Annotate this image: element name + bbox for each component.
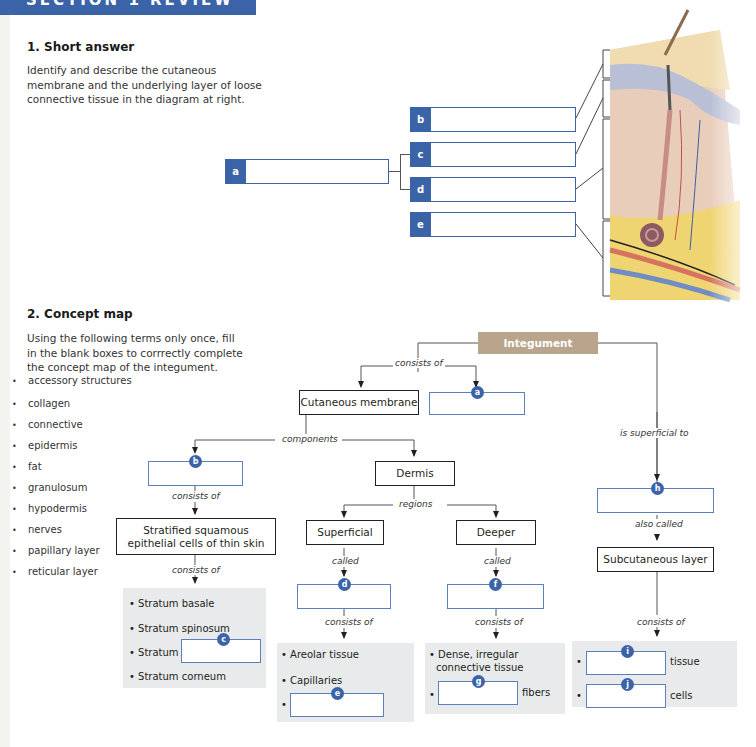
badge-j: j	[621, 678, 634, 691]
panel-item: • Stratum basale	[129, 598, 215, 609]
blank-e[interactable]: e	[290, 693, 384, 717]
badge-a: a	[471, 386, 484, 399]
panel-item: cells	[670, 690, 692, 701]
link-consists-of: consists of	[323, 617, 375, 627]
superficial-node: Superficial	[306, 520, 384, 545]
panel-item: connective tissue	[436, 662, 524, 673]
dermis-node: Dermis	[375, 461, 455, 486]
blank-g[interactable]: g	[438, 681, 518, 705]
panel-item: • Capillaries	[281, 675, 342, 686]
subcutaneous-layer-node: Subcutaneous layer	[597, 547, 714, 572]
blank-h[interactable]: h	[597, 488, 714, 513]
link-consists-of: consists of	[393, 358, 445, 368]
link-is-superficial-to: is superficial to	[618, 428, 691, 438]
badge-b: b	[189, 455, 202, 468]
hypodermis-panel: • i tissue • j cells	[572, 641, 737, 707]
stratified-squamous-node: Stratified squamous epithelial cells of …	[116, 518, 276, 555]
link-consists-of: consists of	[635, 617, 687, 627]
panel-item: • Stratum	[129, 647, 179, 658]
blank-a[interactable]: a	[429, 392, 525, 415]
panel-item: •	[576, 656, 582, 667]
deeper-node: Deeper	[456, 520, 536, 545]
link-consists-of: consists of	[473, 617, 525, 627]
badge-c: c	[217, 633, 230, 646]
link-consists-of: consists of	[170, 565, 222, 575]
link-also-called: also called	[633, 519, 685, 529]
link-regions: regions	[397, 499, 434, 509]
node-line: epithelial cells of thin skin	[128, 537, 265, 550]
panel-item: •	[429, 689, 435, 700]
concept-map-connectors	[0, 0, 756, 747]
panel-item: • Stratum corneum	[129, 671, 226, 682]
panel-item: fibers	[522, 687, 550, 698]
link-called: called	[330, 556, 361, 566]
blank-f[interactable]: f	[447, 584, 544, 609]
link-called: called	[482, 556, 513, 566]
blank-i[interactable]: i	[586, 651, 666, 675]
epidermis-strata-panel: • Stratum basale • Stratum spinosum • St…	[123, 588, 266, 688]
badge-e: e	[331, 687, 344, 700]
badge-g: g	[472, 675, 485, 688]
panel-item: • Stratum spinosum	[129, 623, 230, 634]
integument-node: Integument	[478, 332, 598, 354]
badge-h: h	[651, 482, 664, 495]
cutaneous-membrane-node: Cutaneous membrane	[299, 390, 419, 415]
panel-item: •	[281, 699, 287, 710]
panel-item: • Areolar tissue	[281, 649, 359, 660]
link-components: components	[280, 434, 340, 444]
node-line: Stratified squamous	[143, 524, 249, 537]
blank-b[interactable]: b	[148, 461, 243, 486]
panel-item: •	[576, 690, 582, 701]
blank-c[interactable]: c	[181, 639, 261, 663]
panel-item: tissue	[670, 656, 700, 667]
badge-d: d	[338, 578, 351, 591]
reticular-layer-panel: • Dense, irregular connective tissue • g…	[425, 643, 565, 714]
badge-i: i	[621, 645, 634, 658]
link-consists-of: consists of	[170, 491, 222, 501]
panel-item: • Dense, irregular	[429, 649, 518, 660]
badge-f: f	[489, 578, 502, 591]
papillary-layer-panel: • Areolar tissue • Capillaries • e	[277, 643, 414, 722]
blank-j[interactable]: j	[586, 684, 666, 708]
blank-d[interactable]: d	[297, 584, 391, 609]
